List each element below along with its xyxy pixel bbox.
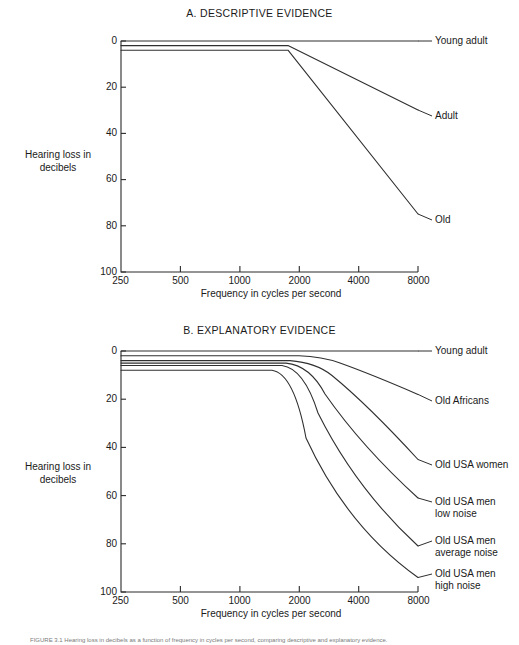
panel-a-axes	[121, 41, 418, 272]
chart-panel-a: A. DESCRIPTIVE EVIDENCE Hearing loss in …	[0, 0, 519, 310]
panel-b-label-old-usa-men-high-noise: Old USA men high noise	[435, 568, 496, 591]
panel-a-y-tick-40: 40	[95, 127, 117, 138]
panel-b-series-old-usa-men-average-noise	[121, 366, 418, 547]
panel-a-x-tick-8000: 8000	[398, 275, 439, 286]
panel-b-x-tick-500: 500	[160, 595, 201, 606]
panel-a-series-adult	[121, 46, 418, 110]
panel-b-y-tick-80: 80	[95, 538, 117, 549]
panel-a-y-tick-0: 0	[95, 35, 117, 46]
panel-a-y-tick-20: 20	[95, 81, 117, 92]
panel-b-x-tick-1000: 1000	[219, 595, 260, 606]
panel-a-x-tick-1000: 1000	[219, 275, 260, 286]
panel-b-leader-old-africans	[418, 394, 432, 401]
panel-a-y-tick-60: 60	[95, 173, 117, 184]
panel-a-x-ticks	[180, 266, 418, 272]
figure-container: A. DESCRIPTIVE EVIDENCE Hearing loss in …	[0, 0, 519, 645]
panel-b-label-old-usa-men-average-noise: Old USA men average noise	[435, 535, 498, 558]
panel-a-label-young-adult: Young adult	[435, 35, 487, 47]
panel-a-leader-old	[418, 214, 432, 220]
panel-a-label-adult: Adult	[435, 110, 458, 122]
panel-b-axes	[121, 351, 418, 592]
panel-a-y-tick-80: 80	[95, 220, 117, 231]
panel-b-y-ticks	[121, 351, 126, 592]
panel-a-x-tick-4000: 4000	[338, 275, 379, 286]
chart-panel-b: B. EXPLANATORY EVIDENCE Hearing loss in …	[0, 312, 519, 632]
panel-a-plot	[0, 0, 519, 310]
panel-a-x-tick-500: 500	[160, 275, 201, 286]
panel-b-x-tick-2000: 2000	[279, 595, 320, 606]
panel-b-y-tick-0: 0	[95, 345, 117, 356]
panel-b-series-old-usa-men-low-noise	[121, 363, 418, 498]
panel-a-y-ticks	[121, 41, 126, 272]
panel-b-leader-old-usa-men-high-noise	[418, 574, 432, 578]
panel-b-label-old-usa-men-low-noise: Old USA men low noise	[435, 496, 496, 519]
panel-b-leader-old-usa-men-low-noise	[418, 498, 432, 502]
panel-b-label-young-adult: Young adult	[435, 345, 487, 357]
panel-b-series-old-usa-men-high-noise	[121, 370, 418, 577]
panel-a-x-tick-2000: 2000	[279, 275, 320, 286]
panel-b-y-tick-40: 40	[95, 441, 117, 452]
panel-a-series-old	[121, 50, 418, 214]
panel-b-y-tick-60: 60	[95, 490, 117, 501]
panel-b-x-tick-8000: 8000	[398, 595, 439, 606]
panel-a-label-old: Old	[435, 214, 451, 226]
figure-caption: FIGURE 3.1 Hearing loss in decibels as a…	[30, 636, 500, 645]
panel-b-leader-old-usa-women	[418, 460, 432, 466]
panel-b-x-tick-250: 250	[100, 595, 141, 606]
panel-b-x-ticks	[180, 586, 418, 592]
panel-b-label-old-africans: Old Africans	[435, 395, 489, 407]
panel-a-x-tick-250: 250	[100, 275, 141, 286]
panel-b-label-old-usa-women: Old USA women	[435, 459, 508, 471]
panel-b-y-tick-20: 20	[95, 393, 117, 404]
panel-a-leader-adult	[418, 110, 432, 116]
panel-b-leader-old-usa-men-average-noise	[418, 541, 432, 546]
panel-b-x-tick-4000: 4000	[338, 595, 379, 606]
panel-b-series-old-africans	[121, 356, 418, 395]
